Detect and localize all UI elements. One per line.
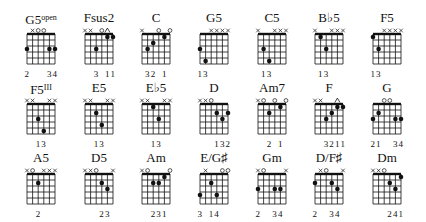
finger-dot-icon — [393, 187, 398, 192]
finger-dot-icon — [145, 47, 150, 52]
finger-number: 1 — [209, 209, 214, 219]
open-string-icon — [273, 99, 277, 103]
chord-diagram: E513 — [71, 74, 127, 144]
finger-dot-icon — [151, 181, 156, 186]
muted-string-icon — [221, 29, 225, 33]
finger-dot-icon — [100, 181, 105, 186]
fretboard-grid — [128, 74, 184, 144]
finger-dot-icon — [226, 111, 231, 116]
finger-dot-icon — [393, 117, 398, 122]
barre-arc-icon — [105, 28, 110, 32]
chord-diagram: D132 — [186, 74, 242, 144]
fretboard-grid — [128, 4, 184, 74]
finger-dot-icon — [399, 175, 404, 180]
finger-dot-icon — [335, 187, 340, 192]
muted-string-icon — [89, 29, 93, 33]
muted-string-icon — [53, 99, 57, 103]
muted-string-icon — [319, 169, 323, 173]
finger-number: 2 — [387, 209, 392, 219]
muted-string-icon — [388, 29, 392, 33]
finger-dot-icon — [399, 117, 404, 122]
open-string-icon — [31, 169, 35, 173]
chord-diagram: D523 — [71, 144, 127, 214]
open-string-icon — [168, 29, 172, 33]
open-string-icon — [42, 29, 46, 33]
muted-string-icon — [83, 29, 87, 33]
chord-diagram: D/F♯234 — [301, 144, 357, 214]
finger-dot-icon — [162, 35, 167, 40]
muted-string-icon — [168, 99, 172, 103]
chord-diagram: Am231 — [128, 144, 184, 214]
finger-dot-icon — [105, 187, 110, 192]
open-string-icon — [382, 99, 386, 103]
chord-diagram: G2134 — [359, 74, 415, 144]
finger-dot-icon — [36, 181, 41, 186]
finger-dot-icon — [220, 117, 225, 122]
finger-number: 4 — [335, 209, 340, 219]
finger-number: 3 — [198, 209, 203, 219]
muted-string-icon — [279, 29, 283, 33]
open-string-icon — [94, 169, 98, 173]
muted-string-icon — [341, 29, 345, 33]
open-string-icon — [226, 169, 230, 173]
chord-diagram: G5open234 — [13, 4, 69, 74]
muted-string-icon — [319, 99, 323, 103]
fretboard-grid — [244, 4, 300, 74]
finger-dot-icon — [100, 123, 105, 128]
finger-dot-icon — [25, 47, 30, 52]
open-string-icon — [36, 29, 40, 33]
finger-dot-icon — [162, 175, 167, 180]
finger-dot-icon — [105, 35, 110, 40]
finger-number: 1 — [162, 209, 167, 219]
finger-dot-icon — [157, 181, 162, 186]
chord-diagram: F5III13 — [13, 74, 69, 144]
finger-dot-icon — [371, 117, 376, 122]
muted-string-icon — [377, 169, 381, 173]
finger-dot-icon — [278, 105, 283, 110]
finger-dot-icon — [215, 193, 220, 198]
muted-string-icon — [198, 99, 202, 103]
open-string-icon — [262, 169, 266, 173]
fretboard-grid — [301, 144, 357, 214]
finger-number: 2 — [36, 209, 41, 219]
finger-dot-icon — [267, 59, 272, 64]
finger-dot-icon — [198, 193, 203, 198]
fretboard-grid — [186, 144, 242, 214]
muted-string-icon — [111, 169, 115, 173]
finger-dot-icon — [36, 117, 41, 122]
open-string-icon — [324, 169, 328, 173]
open-string-icon — [168, 169, 172, 173]
open-string-icon — [146, 169, 150, 173]
open-string-icon — [382, 169, 386, 173]
open-string-icon — [209, 99, 213, 103]
open-string-icon — [100, 29, 104, 33]
finger-dot-icon — [47, 47, 52, 52]
finger-dot-icon — [203, 59, 208, 64]
chord-diagram: B♭513 — [301, 4, 357, 74]
chord-diagram: E/G♯314 — [186, 144, 242, 214]
muted-string-icon — [341, 169, 345, 173]
finger-dot-icon — [388, 181, 393, 186]
muted-string-icon — [256, 169, 260, 173]
fretboard-grid — [359, 144, 415, 214]
finger-dot-icon — [198, 47, 203, 52]
finger-dot-icon — [273, 187, 278, 192]
finger-dot-icon — [324, 117, 329, 122]
open-string-icon — [284, 99, 288, 103]
fretboard-grid — [13, 144, 69, 214]
finger-dot-icon — [53, 47, 58, 52]
chord-diagram: A52 — [13, 144, 69, 214]
muted-string-icon — [25, 99, 29, 103]
finger-dot-icon — [157, 117, 162, 122]
muted-string-icon — [330, 29, 334, 33]
finger-dot-icon — [376, 47, 381, 52]
finger-number: 2 — [256, 209, 261, 219]
finger-dot-icon — [341, 105, 346, 110]
finger-dot-icon — [209, 181, 214, 186]
muted-string-icon — [226, 29, 230, 33]
muted-string-icon — [394, 29, 398, 33]
muted-string-icon — [31, 29, 35, 33]
muted-string-icon — [140, 29, 144, 33]
muted-string-icon — [48, 169, 52, 173]
chord-diagram: Dm241 — [359, 144, 415, 214]
